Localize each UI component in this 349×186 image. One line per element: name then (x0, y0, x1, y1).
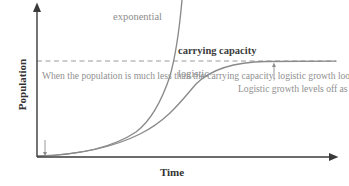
x-axis-title: Time (132, 166, 212, 179)
carrying-capacity-label: carrying capacity (178, 45, 256, 57)
y-axis-title: Population (16, 44, 29, 124)
curve-label-exponential: exponential (113, 11, 162, 23)
annotation-left-text: When the population is much less than th… (42, 70, 162, 82)
population-growth-figure: exponential logistic carrying capacity W… (0, 0, 349, 186)
annotation-right-text: Logistic growth levels off as the popula… (238, 83, 344, 95)
